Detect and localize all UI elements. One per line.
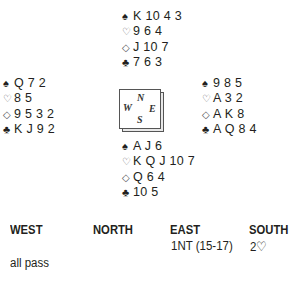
spade-icon: ♠ <box>202 76 213 91</box>
diamond-icon: ◇ <box>202 107 213 122</box>
north-hand: ♠K 10 4 3 ♡9 6 4 ◇J 10 7 ♣7 6 3 <box>122 9 182 70</box>
spade-icon: ♠ <box>122 9 133 24</box>
south-clubs: ♣10 5 <box>122 185 195 200</box>
diamond-icon: ◇ <box>122 40 133 55</box>
north-diamonds: ◇J 10 7 <box>122 40 182 55</box>
east-diamonds: ◇A K 8 <box>202 107 257 122</box>
compass-south: S <box>137 114 143 125</box>
club-icon: ♣ <box>3 122 14 137</box>
west-clubs: ♣K J 9 2 <box>3 122 55 137</box>
heart-icon: ♡ <box>122 24 133 39</box>
east-hearts: ♡A 3 2 <box>202 91 257 106</box>
south-hearts: ♡K Q J 10 7 <box>122 154 195 169</box>
south-diamonds: ◇Q 6 4 <box>122 170 195 185</box>
east-clubs: ♣A Q 8 4 <box>202 122 257 137</box>
east-spades: ♠9 8 5 <box>202 76 257 91</box>
club-icon: ♣ <box>122 185 133 200</box>
bid-south-1: 2♡ <box>250 239 267 254</box>
south-hand: ♠A J 6 ♡K Q J 10 7 ◇Q 6 4 ♣10 5 <box>122 139 195 200</box>
north-hearts: ♡9 6 4 <box>122 24 182 39</box>
auction-header-north: NORTH <box>93 223 133 237</box>
compass-north: N <box>137 92 144 103</box>
west-hand: ♠Q 7 2 ♡8 5 ◇9 5 3 2 ♣K J 9 2 <box>3 76 55 137</box>
west-spades: ♠Q 7 2 <box>3 76 55 91</box>
auction-header-west: WEST <box>10 223 42 237</box>
auction-header-east: EAST <box>170 223 200 237</box>
north-clubs: ♣7 6 3 <box>122 55 182 70</box>
west-diamonds: ◇9 5 3 2 <box>3 107 55 122</box>
heart-icon: ♡ <box>122 154 133 169</box>
north-spades: ♠K 10 4 3 <box>122 9 182 24</box>
compass-box: N W E S <box>119 89 161 129</box>
diamond-icon: ◇ <box>3 107 14 122</box>
south-spades: ♠A J 6 <box>122 139 195 154</box>
spade-icon: ♠ <box>3 76 14 91</box>
heart-icon: ♡ <box>3 91 14 106</box>
spade-icon: ♠ <box>122 139 133 154</box>
west-hearts: ♡8 5 <box>3 91 55 106</box>
compass-east: E <box>149 103 156 114</box>
club-icon: ♣ <box>202 122 213 137</box>
bid-east-1: 1NT (15-17) <box>171 239 233 253</box>
club-icon: ♣ <box>122 55 133 70</box>
east-hand: ♠9 8 5 ♡A 3 2 ◇A K 8 ♣A Q 8 4 <box>202 76 257 137</box>
heart-icon: ♡ <box>202 91 213 106</box>
auction-header-south: SOUTH <box>249 223 288 237</box>
compass-west: W <box>123 102 132 113</box>
bid-west-2: all pass <box>10 256 49 270</box>
diamond-icon: ◇ <box>122 170 133 185</box>
